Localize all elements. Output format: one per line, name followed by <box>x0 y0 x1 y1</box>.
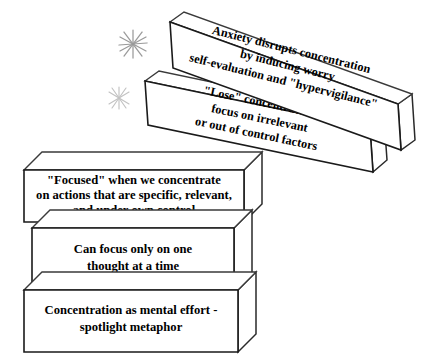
block-one-thought-line-2: thought at a time <box>87 259 179 273</box>
block-spotlight[interactable]: Concentration as mental effort - spotlig… <box>24 272 256 352</box>
diagram-canvas: "Lose" concentration - focus on irreleva… <box>0 0 426 362</box>
blocks-diagram-svg: "Lose" concentration - focus on irreleva… <box>0 0 426 362</box>
block-one-thought-line-1: Can focus only on one <box>74 242 193 256</box>
sparkle-lower-icon <box>109 87 129 109</box>
block-one-thought-top-face <box>32 210 252 228</box>
sparkle-upper-icon <box>119 30 147 58</box>
block-focused-line-1: "Focused" when we concentrate <box>47 173 221 187</box>
block-spotlight-line-1: Concentration as mental effort - <box>45 303 218 317</box>
block-focused-top-face <box>24 152 262 170</box>
block-focused-line-2: on actions that are specific, relevant, <box>36 188 232 202</box>
block-spotlight-top-face <box>24 272 256 290</box>
block-spotlight-line-2: spotlight metaphor <box>80 320 183 334</box>
